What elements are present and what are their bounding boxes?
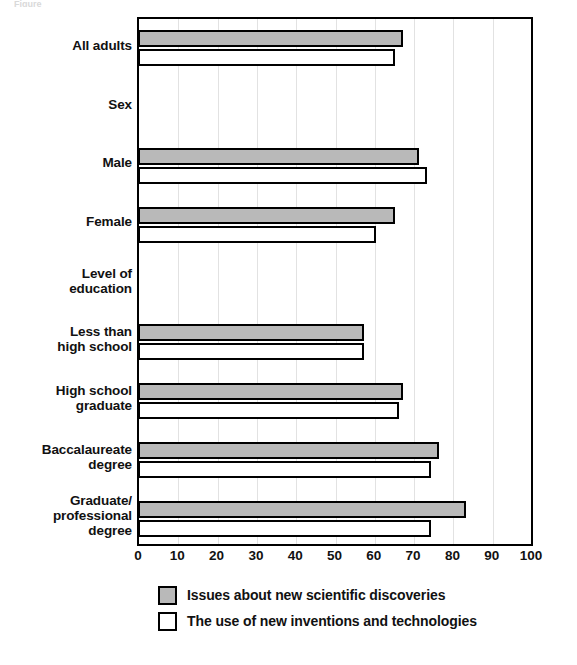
bar-series-b — [138, 167, 427, 184]
legend-swatch — [158, 612, 177, 631]
y-axis-label: Graduate/professionaldegree — [0, 493, 132, 538]
bar-series-a — [138, 207, 395, 224]
bar-series-a — [138, 30, 403, 47]
x-axis-tick: 80 — [445, 548, 460, 563]
x-axis-tick: 20 — [209, 548, 224, 563]
bar-series-a — [138, 501, 466, 518]
legend-item: The use of new inventions and technologi… — [158, 609, 558, 633]
y-axis-label-line: high school — [57, 339, 132, 354]
legend-swatch — [158, 586, 177, 605]
bar-chart-figure: Figure All adultsSexMaleFemaleLevel ofed… — [0, 0, 577, 665]
cropped-title-sliver: Figure — [14, 0, 164, 7]
legend-label: Issues about new scientific discoveries — [187, 587, 445, 603]
y-axis-label: Less thanhigh school — [0, 324, 132, 354]
y-axis-label-line: Male — [102, 155, 132, 170]
x-axis-tick-labels: 0102030405060708090100 — [137, 548, 533, 568]
y-axis-label-line: degree — [88, 457, 132, 472]
y-axis-label-line: Female — [86, 214, 132, 229]
y-axis-label-line: Graduate/ — [70, 493, 132, 508]
x-axis-tick: 100 — [520, 548, 543, 563]
bar-series-b — [138, 520, 431, 537]
bar-series-b — [138, 461, 431, 478]
x-axis-tick: 40 — [288, 548, 303, 563]
y-axis-label: Baccalaureatedegree — [0, 442, 132, 472]
y-axis-label-line: All adults — [72, 38, 132, 53]
bar-series-a — [138, 442, 439, 459]
bar-series-a — [138, 383, 403, 400]
gridline — [493, 19, 494, 544]
x-axis-tick: 0 — [134, 548, 142, 563]
y-axis-label-line: Sex — [108, 97, 132, 112]
y-axis-label-line: Level of — [82, 266, 132, 281]
x-axis-tick: 30 — [248, 548, 263, 563]
y-axis-label: Level ofeducation — [0, 266, 132, 296]
legend-item: Issues about new scientific discoveries — [158, 583, 558, 607]
y-axis-label-line: degree — [88, 523, 132, 538]
bar-series-b — [138, 402, 399, 419]
chart-legend: Issues about new scientific discoveriesT… — [158, 583, 558, 635]
y-axis-label: High schoolgraduate — [0, 383, 132, 413]
x-axis-tick: 50 — [327, 548, 342, 563]
bar-series-b — [138, 49, 395, 66]
x-axis-tick: 10 — [170, 548, 185, 563]
x-axis-tick: 90 — [484, 548, 499, 563]
x-axis-tick: 60 — [366, 548, 381, 563]
y-axis-label-line: graduate — [76, 398, 132, 413]
y-axis-label: Sex — [0, 97, 132, 112]
y-axis-label-line: education — [69, 281, 132, 296]
legend-label: The use of new inventions and technologi… — [187, 613, 477, 629]
bar-series-a — [138, 324, 364, 341]
y-axis-label-line: Less than — [70, 324, 132, 339]
y-axis-label-line: High school — [56, 383, 132, 398]
y-axis-label: Male — [0, 155, 132, 170]
y-axis-label-line: Baccalaureate — [42, 442, 132, 457]
bar-series-b — [138, 226, 376, 243]
gridline — [453, 19, 454, 544]
y-axis-labels: All adultsSexMaleFemaleLevel ofeducation… — [0, 17, 132, 546]
y-axis-label: Female — [0, 214, 132, 229]
y-axis-label: All adults — [0, 38, 132, 53]
y-axis-label-line: professional — [53, 508, 132, 523]
plot-inner — [139, 19, 531, 544]
plot-area — [137, 17, 533, 546]
bar-series-b — [138, 343, 364, 360]
bar-series-a — [138, 148, 419, 165]
x-axis-tick: 70 — [406, 548, 421, 563]
